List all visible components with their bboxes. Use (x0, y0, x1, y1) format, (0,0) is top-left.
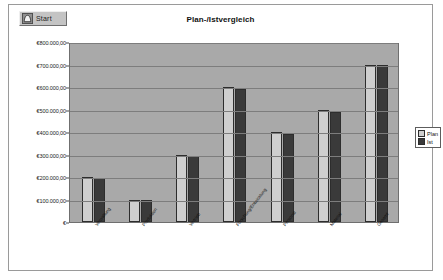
bar-plan[interactable] (82, 177, 93, 222)
plot-area (69, 43, 399, 223)
legend-swatch (418, 138, 425, 145)
chart-window-frame: Start Plan-/Istvergleich €800.000,00€700… (8, 4, 433, 271)
legend-swatch (418, 130, 425, 137)
chart-legend: PlanIst (415, 127, 441, 148)
x-axis: VerwaltungProduktionVertriebForschung/En… (69, 224, 399, 280)
gridline (70, 66, 398, 67)
y-axis-tick-label: €700.000,00 (37, 63, 67, 69)
screenshot-root: Start Plan-/Istvergleich €800.000,00€700… (0, 0, 443, 280)
gridline (70, 156, 398, 157)
gridline (70, 201, 398, 202)
legend-label: Ist (427, 139, 433, 145)
legend-item[interactable]: Ist (418, 138, 438, 145)
y-axis-tick-label: €800.000,00 (37, 40, 67, 46)
y-axis-tick-label: €400.000,00 (37, 130, 67, 136)
gridline (70, 111, 398, 112)
bar-plan[interactable] (318, 110, 329, 223)
bar-ist[interactable] (330, 112, 341, 222)
chart-title: Plan-/Istvergleich (9, 15, 432, 24)
y-axis: €800.000,00€700.000,00€600.000,00€500.00… (17, 43, 69, 223)
legend-label: Plan (427, 131, 438, 137)
bar-plan[interactable] (129, 200, 140, 223)
gridline (70, 133, 398, 134)
y-axis-tick-label: €500.000,00 (37, 108, 67, 114)
y-axis-tick-label: €100.000,00 (37, 198, 67, 204)
y-axis-tick-label: €300.000,00 (37, 153, 67, 159)
gridline (70, 43, 398, 44)
gridline (70, 88, 398, 89)
y-axis-tick-label: €200.000,00 (37, 175, 67, 181)
y-axis-tick-label: €600.000,00 (37, 85, 67, 91)
bar-plan[interactable] (176, 155, 187, 223)
bar-plan[interactable] (271, 132, 282, 222)
legend-item[interactable]: Plan (418, 130, 438, 137)
bar-plan[interactable] (223, 87, 234, 222)
gridline (70, 178, 398, 179)
